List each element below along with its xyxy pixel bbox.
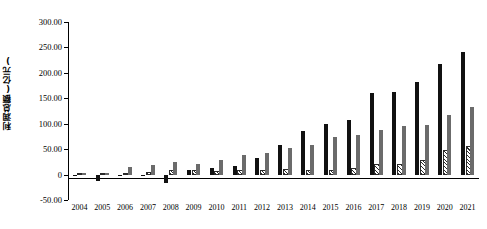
plot-area (68, 22, 479, 200)
bar-series-black-2019 (415, 82, 419, 175)
x-tick-label: 2020 (437, 203, 453, 212)
x-tick-label: 2012 (254, 203, 270, 212)
x-tick-label: 2013 (277, 203, 293, 212)
x-tick-label: 2008 (163, 203, 179, 212)
bar-series-gray-2010 (219, 160, 223, 174)
y-tick-label: 50.00 (43, 144, 62, 154)
bar-series-black-2020 (438, 64, 442, 175)
x-tick-label: 2017 (368, 203, 384, 212)
x-tick-label: 2015 (323, 203, 339, 212)
bar-series-black-2017 (370, 93, 374, 174)
x-tick-label: 2014 (300, 203, 316, 212)
bar-series-black-2011 (233, 166, 237, 174)
bar-series-gray-2004 (82, 173, 86, 175)
y-tick-label: 200.00 (39, 68, 62, 78)
y-tick-label: 300.00 (39, 17, 62, 27)
x-axis-labels: 2004200520062007200820092010201120122013… (68, 203, 479, 217)
chart-container: 利润总额(亿元) 300.00250.00200.00150.00100.005… (0, 0, 487, 229)
x-tick-label: 2006 (117, 203, 133, 212)
bar-series-black-2021 (461, 52, 465, 175)
y-tick-label: 250.00 (39, 42, 62, 52)
bar-series-gray-2007 (151, 165, 155, 174)
bar-series-black-2007 (141, 175, 145, 176)
y-axis-title: 利润总额(亿元) (4, 56, 18, 130)
bar-series-black-2008 (164, 175, 168, 184)
bar-series-gray-2008 (173, 162, 177, 175)
bar-series-gray-2019 (425, 125, 429, 175)
bar-series-gray-2018 (402, 126, 406, 175)
x-tick-label: 2018 (391, 203, 407, 212)
bar-series-black-2009 (187, 170, 191, 174)
bar-series-black-2013 (278, 145, 282, 175)
bar-series-gray-2017 (379, 130, 383, 175)
x-tick-label: 2004 (71, 203, 87, 212)
bar-series-black-2012 (255, 158, 259, 174)
bar-series-black-2004 (73, 175, 77, 177)
bar-series-gray-2006 (128, 167, 132, 174)
bar-series-black-2010 (210, 168, 214, 175)
bar-series-black-2006 (118, 175, 122, 176)
bar-series-black-2005 (96, 175, 100, 182)
bar-series-gray-2005 (105, 173, 109, 175)
x-tick-label: 2010 (208, 203, 224, 212)
bar-series-black-2015 (324, 124, 328, 174)
x-tick-label: 2005 (94, 203, 110, 212)
bar-series-black-2014 (301, 131, 305, 174)
bar-series-gray-2013 (288, 148, 292, 174)
bar-series-gray-2014 (310, 145, 314, 174)
bar-series-gray-2011 (242, 155, 246, 174)
x-tick-label: 2009 (186, 203, 202, 212)
bar-series-gray-2015 (333, 137, 337, 175)
bar-series-gray-2021 (470, 107, 474, 175)
bar-series-black-2016 (347, 120, 351, 175)
x-tick-label: 2007 (140, 203, 156, 212)
y-tick-label: 0 (58, 170, 62, 180)
x-tick-label: 2016 (345, 203, 361, 212)
bar-series-gray-2012 (265, 153, 269, 175)
x-tick-label: 2011 (231, 203, 247, 212)
y-tick-label: -50.00 (40, 195, 62, 205)
x-tick-label: 2019 (414, 203, 430, 212)
y-tick-label: 150.00 (39, 93, 62, 103)
x-tick-label: 2021 (460, 203, 476, 212)
y-tick-mark (64, 200, 68, 201)
bar-series-black-2018 (392, 92, 396, 174)
bar-series-gray-2016 (356, 135, 360, 175)
bar-series-gray-2009 (196, 164, 200, 175)
bar-series-gray-2020 (447, 115, 451, 175)
y-tick-label: 100.00 (39, 119, 62, 129)
